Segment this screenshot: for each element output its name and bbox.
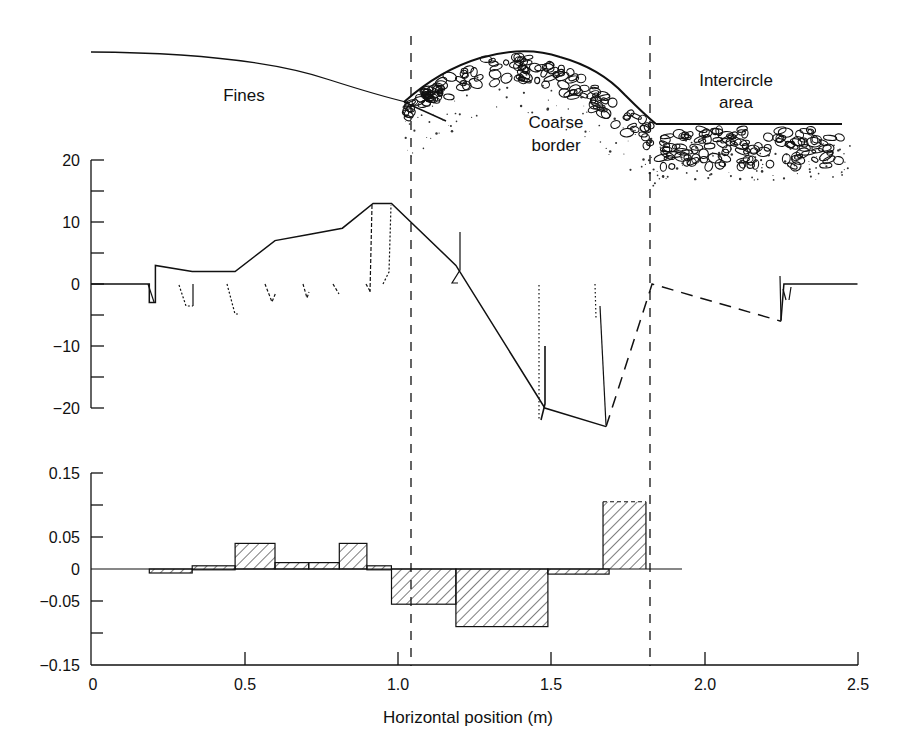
x-axis: [91, 652, 858, 665]
histogram-bars: [149, 502, 646, 627]
figure-canvas: Fines Coarse border Intercircle area 20 …: [0, 0, 898, 750]
ytick-10: 10: [62, 214, 80, 231]
xtick-2.0: 2.0: [694, 676, 716, 693]
xtick-2.5: 2.5: [847, 676, 869, 693]
ytick-0.05: 0.05: [49, 529, 80, 546]
profile-y-tick-labels: 20 10 0 −10 −20: [53, 152, 80, 417]
profile-line-1: [606, 284, 781, 427]
schematic: Fines Coarse border Intercircle area: [91, 51, 851, 186]
histogram-bar: [275, 563, 309, 569]
profile-detail-marks: [148, 205, 791, 425]
histogram-bar: [309, 563, 340, 569]
ytick-neg0.05: −0.05: [40, 593, 81, 610]
coarse-stones-texture: [401, 53, 845, 173]
histogram-y-tick-labels: 0.15 0.05 0 −0.05 −0.15: [40, 465, 81, 674]
xtick-1.5: 1.5: [540, 676, 562, 693]
xtick-0.5: 0.5: [234, 676, 256, 693]
profile-chart: 20 10 0 −10 −20: [53, 152, 858, 427]
histogram-bar: [339, 543, 367, 569]
profile-line-2: [781, 284, 858, 321]
profile-line-0: [91, 203, 606, 426]
histogram-bar: [235, 543, 275, 569]
ytick-0.15: 0.15: [49, 465, 80, 482]
ytick-0: 0: [71, 561, 80, 578]
xtick-0: 0: [89, 676, 98, 693]
histogram-bar: [456, 569, 548, 627]
label-intercircle-1: Intercircle: [699, 71, 773, 90]
x-axis-label: Horizontal position (m): [383, 708, 553, 727]
histogram-bar: [603, 502, 646, 569]
label-intercircle-2: area: [719, 93, 754, 112]
profile-series: [91, 203, 858, 426]
histogram-chart: 0.15 0.05 0 −0.05 −0.15: [40, 465, 682, 674]
xtick-1.0: 1.0: [387, 676, 409, 693]
label-fines: Fines: [223, 86, 265, 105]
ytick-0: 0: [71, 276, 80, 293]
label-coarse-border-2: border: [531, 136, 580, 155]
label-coarse-border-1: Coarse: [529, 113, 584, 132]
histogram-bar: [548, 569, 609, 574]
ytick-20: 20: [62, 152, 80, 169]
ytick-neg0.15: −0.15: [40, 657, 81, 674]
ytick-neg20: −20: [53, 400, 80, 417]
ytick-neg10: −10: [53, 338, 80, 355]
histogram-bar: [392, 569, 456, 604]
fines-speckle-texture: [405, 74, 851, 187]
x-tick-labels: 0 0.5 1.0 1.5 2.0 2.5: [89, 676, 870, 693]
